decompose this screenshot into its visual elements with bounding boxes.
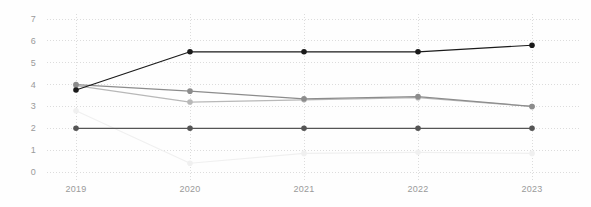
data-point bbox=[415, 125, 421, 131]
data-point bbox=[187, 125, 193, 131]
data-point bbox=[301, 125, 307, 131]
x-axis-tick-2022: 2022 bbox=[398, 184, 438, 194]
y-axis-tick-3: 3 bbox=[14, 101, 36, 111]
y-axis-tick-5: 5 bbox=[14, 58, 36, 68]
data-point bbox=[529, 151, 535, 157]
data-point bbox=[529, 42, 535, 48]
series-series-4-dark-gray bbox=[73, 125, 535, 131]
data-point bbox=[529, 125, 535, 131]
data-point bbox=[73, 82, 79, 88]
x-axis-tick-2023: 2023 bbox=[512, 184, 552, 194]
x-axis-tick-2021: 2021 bbox=[284, 184, 324, 194]
data-point bbox=[187, 88, 193, 94]
y-axis-tick-7: 7 bbox=[14, 14, 36, 24]
gridlines-horizontal bbox=[47, 19, 580, 172]
y-axis-tick-1: 1 bbox=[14, 145, 36, 155]
y-axis-tick-4: 4 bbox=[14, 80, 36, 90]
x-axis-tick-2020: 2020 bbox=[170, 184, 210, 194]
data-point bbox=[187, 99, 193, 105]
y-axis-tick-2: 2 bbox=[14, 123, 36, 133]
y-axis-tick-0: 0 bbox=[14, 167, 36, 177]
x-axis-tick-2019: 2019 bbox=[56, 184, 96, 194]
chart-plot-area bbox=[0, 0, 591, 207]
data-point bbox=[73, 87, 79, 93]
y-axis-tick-6: 6 bbox=[14, 36, 36, 46]
series-series-1-black bbox=[73, 42, 535, 92]
data-point bbox=[415, 94, 421, 100]
line-chart: 01234567 20192020202120222023 bbox=[0, 0, 591, 207]
data-point bbox=[415, 49, 421, 55]
data-point bbox=[301, 96, 307, 102]
data-point bbox=[73, 108, 79, 114]
data-point bbox=[73, 125, 79, 131]
data-point bbox=[187, 49, 193, 55]
data-point bbox=[415, 150, 421, 156]
data-point bbox=[301, 49, 307, 55]
data-point bbox=[187, 160, 193, 166]
data-point bbox=[529, 104, 535, 110]
data-point bbox=[301, 151, 307, 157]
